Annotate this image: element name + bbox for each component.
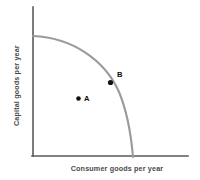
chart-canvas [0, 0, 200, 180]
point-a-label: A [84, 95, 89, 103]
point-b-dot [108, 80, 113, 85]
production-possibilities-frontier-curve [33, 36, 133, 157]
point-b-label: B [117, 71, 122, 79]
point-a-dot [76, 96, 81, 101]
x-axis-label: Consumer goods per year [42, 165, 192, 172]
y-axis-label: Capital goods per year [13, 36, 20, 136]
ppf-chart-figure: Capital goods per year Consumer goods pe… [0, 0, 200, 180]
